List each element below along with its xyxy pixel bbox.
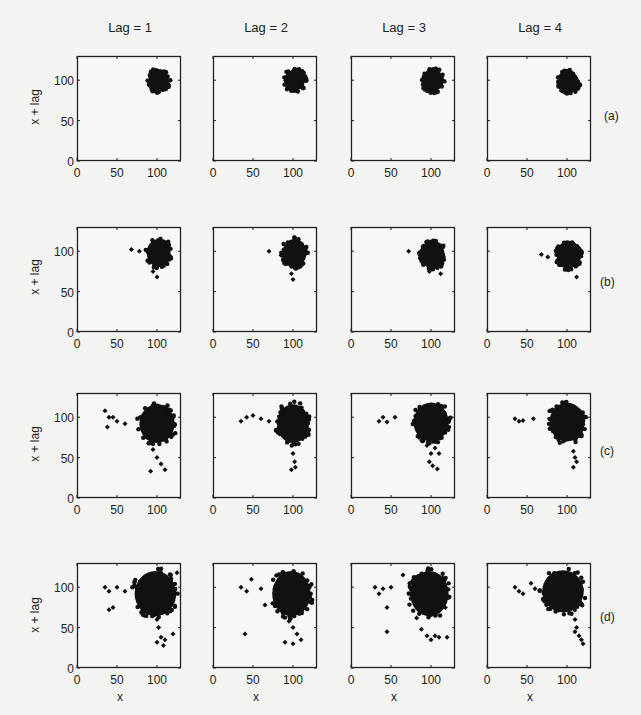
x-tick-label: 0 [210, 673, 217, 687]
x-tick-label: 100 [147, 503, 167, 517]
x-tick-label: 0 [210, 166, 217, 180]
x-tick-label: 0 [74, 673, 81, 687]
x-tick-label: 0 [348, 166, 355, 180]
x-tick-label: 50 [110, 503, 124, 517]
scatter-panel-a-lag-1: 050100050100 [77, 56, 181, 161]
ylabel-row-a: x + lag [28, 77, 42, 137]
scatter-panel-b-lag-3: 050100 [351, 227, 455, 332]
xlabel-col-4: x [520, 690, 540, 704]
x-tick-label: 0 [348, 503, 355, 517]
x-tick-label: 50 [520, 337, 534, 351]
x-tick-label: 50 [384, 337, 398, 351]
x-tick-label: 0 [484, 503, 491, 517]
scatter-panel-c-lag-4: 050100 [487, 393, 591, 498]
x-tick-label: 50 [246, 337, 260, 351]
x-tick-label: 100 [283, 673, 303, 687]
column-title-lag-1: Lag = 1 [75, 20, 185, 35]
x-tick-label: 0 [484, 337, 491, 351]
x-tick-label: 100 [421, 337, 441, 351]
xlabel-col-2: x [246, 690, 266, 704]
x-tick-label: 100 [557, 503, 577, 517]
x-tick-label: 100 [147, 673, 167, 687]
y-tick-label: 100 [54, 74, 74, 88]
scatter-panel-b-lag-2: 050100 [213, 227, 317, 332]
x-tick-label: 100 [147, 166, 167, 180]
y-tick-label: 100 [54, 581, 74, 595]
scatter-panel-d-lag-4: 050100 [487, 563, 591, 668]
row-label-c: (c) [600, 444, 614, 458]
x-tick-label: 50 [246, 673, 260, 687]
x-tick-label: 100 [421, 503, 441, 517]
x-tick-label: 0 [484, 166, 491, 180]
row-label-b: (b) [600, 275, 615, 289]
x-tick-label: 0 [74, 166, 81, 180]
x-tick-label: 50 [520, 503, 534, 517]
x-tick-label: 100 [283, 166, 303, 180]
scatter-panel-d-lag-2: 050100 [213, 563, 317, 668]
x-tick-label: 50 [110, 166, 124, 180]
y-tick-label: 0 [67, 492, 74, 506]
row-label-a: (a) [604, 109, 619, 123]
x-tick-label: 50 [246, 166, 260, 180]
scatter-panel-d-lag-3: 050100 [351, 563, 455, 668]
scatter-panel-a-lag-4: 050100 [487, 56, 591, 161]
y-tick-label: 50 [61, 622, 75, 636]
x-tick-label: 100 [557, 166, 577, 180]
y-tick-label: 100 [54, 245, 74, 259]
scatter-panel-a-lag-2: 050100 [213, 56, 317, 161]
x-tick-label: 100 [421, 673, 441, 687]
x-tick-label: 100 [557, 337, 577, 351]
x-tick-label: 50 [384, 673, 398, 687]
scatter-panel-c-lag-1: 050100050100 [77, 393, 181, 498]
x-tick-label: 50 [246, 503, 260, 517]
y-tick-label: 0 [67, 662, 74, 676]
plot-frame [488, 57, 591, 161]
column-title-lag-2: Lag = 2 [211, 20, 321, 35]
x-tick-label: 100 [283, 503, 303, 517]
scatter-panel-a-lag-3: 050100 [351, 56, 455, 161]
x-tick-label: 100 [283, 337, 303, 351]
y-tick-label: 0 [67, 155, 74, 169]
row-label-d: (d) [600, 610, 615, 624]
data-points [282, 67, 309, 94]
scatter-panel-c-lag-3: 050100 [351, 393, 455, 498]
x-tick-label: 0 [74, 503, 81, 517]
x-tick-label: 50 [110, 673, 124, 687]
scatter-panel-b-lag-1: 050100050100 [77, 227, 181, 332]
y-tick-label: 50 [61, 286, 75, 300]
scatter-panel-b-lag-4: 050100 [487, 227, 591, 332]
x-tick-label: 50 [384, 503, 398, 517]
x-tick-label: 0 [348, 673, 355, 687]
x-tick-label: 100 [147, 337, 167, 351]
column-title-lag-3: Lag = 3 [349, 20, 459, 35]
x-tick-label: 0 [74, 337, 81, 351]
x-tick-label: 0 [210, 503, 217, 517]
ylabel-row-b: x + lag [28, 247, 42, 307]
x-tick-label: 50 [520, 673, 534, 687]
x-tick-label: 100 [421, 166, 441, 180]
y-tick-label: 50 [61, 452, 75, 466]
y-tick-label: 0 [67, 326, 74, 340]
scatter-panel-c-lag-2: 050100 [213, 393, 317, 498]
x-tick-label: 0 [210, 337, 217, 351]
scatter-panel-d-lag-1: 050100050100 [77, 563, 181, 668]
xlabel-col-3: x [384, 690, 404, 704]
y-tick-label: 50 [61, 115, 75, 129]
x-tick-label: 0 [484, 673, 491, 687]
xlabel-col-1: x [110, 690, 130, 704]
x-tick-label: 50 [384, 166, 398, 180]
y-tick-label: 100 [54, 411, 74, 425]
ylabel-row-d: x + lag [28, 585, 42, 645]
column-title-lag-4: Lag = 4 [485, 20, 595, 35]
x-tick-label: 50 [520, 166, 534, 180]
x-tick-label: 50 [110, 337, 124, 351]
x-tick-label: 0 [348, 337, 355, 351]
x-tick-label: 100 [557, 673, 577, 687]
ylabel-row-c: x + lag [28, 414, 42, 474]
